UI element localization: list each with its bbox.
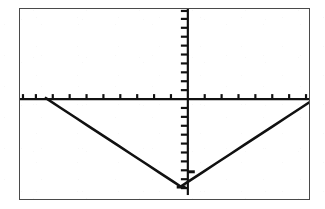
plot-vertex-marker — [177, 186, 186, 189]
y-axis-crossing-step — [188, 170, 195, 173]
graph-plot-area — [20, 9, 309, 199]
calculator-screen-frame — [19, 8, 310, 200]
plot-curve-right-branch — [181, 94, 309, 187]
screenshot-root — [0, 0, 325, 209]
plot-curve-left-branch — [46, 98, 181, 186]
